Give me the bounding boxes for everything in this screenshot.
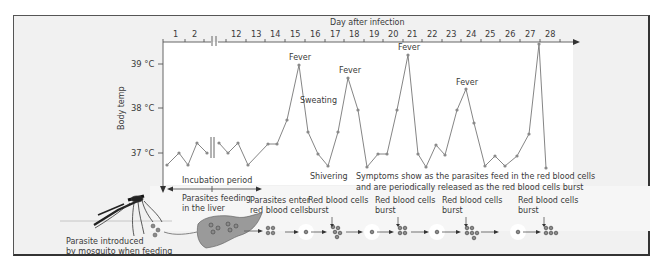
svg-text:14: 14 <box>270 29 280 39</box>
svg-text:2: 2 <box>192 29 197 39</box>
svg-text:15: 15 <box>290 29 300 39</box>
svg-text:26: 26 <box>505 29 515 39</box>
x-axis-title: Day after infection <box>330 18 405 27</box>
svg-text:12: 12 <box>231 29 241 39</box>
svg-text:39 °C: 39 °C <box>131 59 155 69</box>
fever-label-1: Fever <box>289 53 312 62</box>
mosquito-caption-line2: by mosquito when feeding <box>66 247 172 256</box>
y-axis <box>158 42 163 186</box>
shivering-label: Shivering <box>310 172 348 181</box>
svg-text:25: 25 <box>485 29 495 39</box>
malaria-fever-diagram: Day after infection 1 2 12 13 14 <box>0 0 662 276</box>
mosquito-caption-line1: Parasite introduced <box>66 237 144 246</box>
svg-text:27: 27 <box>525 29 535 39</box>
incubation-label: Incubation period <box>182 176 252 185</box>
liver-caption-line2: in the liver <box>182 204 226 213</box>
svg-text:20: 20 <box>388 29 398 39</box>
svg-text:24: 24 <box>466 29 476 39</box>
svg-text:21: 21 <box>407 29 417 39</box>
burst-caption-1-line2: burst <box>308 206 329 215</box>
svg-text:16: 16 <box>310 29 320 39</box>
svg-text:17: 17 <box>330 29 340 39</box>
svg-text:22: 22 <box>427 29 437 39</box>
burst-caption-4-line1: Red blood cells <box>518 196 578 205</box>
burst-caption-2-line2: burst <box>375 206 396 215</box>
svg-text:1: 1 <box>173 29 178 39</box>
svg-text:18: 18 <box>349 29 359 39</box>
fever-label-3: Fever <box>398 43 421 52</box>
enter-caption-line1: Parasites enter <box>250 196 311 205</box>
burst-caption-1-line1: Red blood cells <box>308 196 368 205</box>
svg-text:23: 23 <box>446 29 456 39</box>
burst-caption-3-line1: Red blood cells <box>442 196 502 205</box>
svg-text:13: 13 <box>251 29 261 39</box>
enter-caption-line2: red blood cells <box>250 206 308 215</box>
fever-label-4: Fever <box>456 78 479 87</box>
burst-caption-3-line2: burst <box>442 206 463 215</box>
burst-caption-2-line1: Red blood cells <box>375 196 435 205</box>
y-axis-title: Body temp <box>117 86 126 130</box>
svg-text:38 °C: 38 °C <box>131 103 155 113</box>
y-tick-labels: 39 °C 38 °C 37 °C <box>131 59 155 158</box>
x-tick-labels: 1 2 12 13 14 15 16 17 18 19 20 21 22 23 … <box>173 29 555 39</box>
svg-text:37 °C: 37 °C <box>131 148 155 158</box>
svg-text:28: 28 <box>545 29 555 39</box>
fever-label-2: Fever <box>339 66 362 75</box>
symptoms-caption-line2: and are periodically released as the red… <box>356 183 583 192</box>
liver-caption-line1: Parasites feeding <box>182 194 251 203</box>
x-axis-arrow-icon <box>573 39 580 45</box>
symptoms-caption-line1: Symptoms show as the parasites feed in t… <box>356 172 595 181</box>
arrow-to-liver <box>164 232 197 234</box>
sweating-label: Sweating <box>300 96 337 105</box>
plot-area <box>163 42 573 185</box>
burst-caption-4-line2: burst <box>518 206 539 215</box>
svg-text:19: 19 <box>369 29 379 39</box>
